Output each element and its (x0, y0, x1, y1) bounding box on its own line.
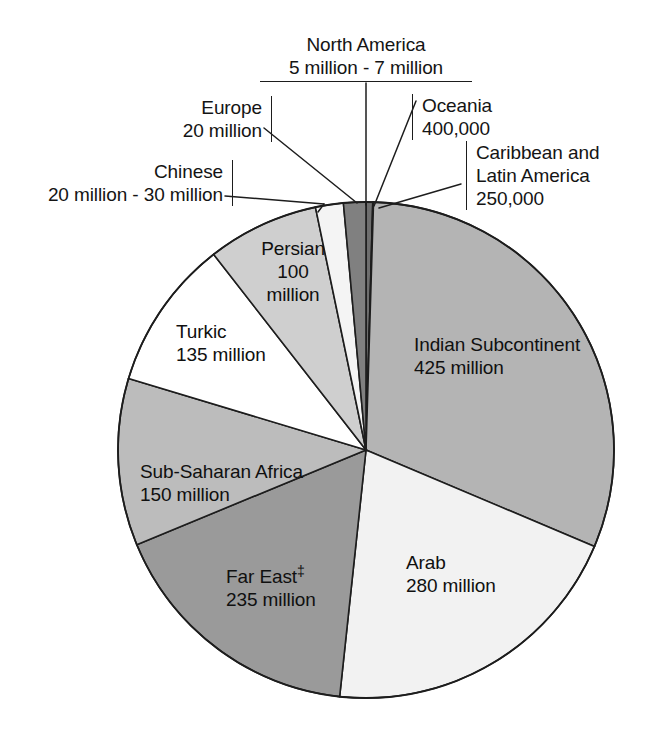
callout-oceania-line-1: Oceania (422, 94, 492, 117)
slice-label-turkic-line-2: 135 million (176, 343, 266, 366)
slice-label-persian-line-3: million (245, 283, 341, 306)
slice-label-sub-saharan-africa-line-2: 150 million (140, 483, 303, 506)
callout-north-america-line-2: 5 million - 7 million (260, 56, 472, 79)
slice-label-far-east-line-1-wrap: Far East‡ (226, 560, 316, 588)
pie-chart-figure: North America 5 million - 7 million Ocea… (0, 0, 648, 736)
callout-caribbean-latin-america-line-1: Caribbean and (476, 141, 599, 164)
callout-chinese-line-2: 20 million - 30 million (8, 183, 223, 206)
leader-line-oceania (374, 101, 416, 206)
callout-europe-line-2: 20 million (80, 119, 262, 142)
callout-chinese-line-1: Chinese (8, 160, 223, 183)
far-east-dagger-marker: ‡ (297, 563, 305, 579)
leader-line-chinese (225, 196, 324, 204)
slice-label-indian-subcontinent-line-1: Indian Subcontinent (414, 333, 580, 356)
slice-label-indian-subcontinent-line-2: 425 million (414, 356, 580, 379)
callout-caribbean-latin-america-line-3: 250,000 (476, 187, 599, 210)
callout-caribbean-latin-america: Caribbean and Latin America 250,000 (466, 141, 599, 210)
callout-caribbean-latin-america-line-2: Latin America (476, 164, 599, 187)
slice-label-turkic-line-1: Turkic (176, 320, 266, 343)
slice-label-persian-line-2: 100 (245, 260, 341, 283)
slice-label-arab-line-1: Arab (406, 551, 496, 574)
slice-label-arab: Arab 280 million (406, 551, 496, 597)
slice-label-far-east: Far East‡ 235 million (226, 560, 316, 611)
pie-slices (118, 202, 614, 698)
slice-label-turkic: Turkic 135 million (176, 320, 266, 366)
slice-label-sub-saharan-africa: Sub-Saharan Africa 150 million (140, 460, 303, 506)
callout-oceania: Oceania 400,000 (412, 94, 492, 140)
slice-label-indian-subcontinent: Indian Subcontinent 425 million (414, 333, 580, 379)
callout-north-america: North America 5 million - 7 million (260, 33, 472, 82)
slice-label-persian-line-1: Persian (245, 237, 341, 260)
leader-line-caribbean-latin-america (379, 184, 461, 208)
callout-europe: Europe 20 million (80, 96, 272, 142)
slice-label-far-east-line-1: Far East (226, 566, 297, 587)
callout-chinese: Chinese 20 million - 30 million (8, 160, 233, 206)
slice-label-far-east-line-2: 235 million (226, 588, 316, 611)
slice-label-sub-saharan-africa-line-1: Sub-Saharan Africa (140, 460, 303, 483)
callout-north-america-line-1: North America (260, 33, 472, 56)
slice-label-arab-line-2: 280 million (406, 574, 496, 597)
callout-oceania-line-2: 400,000 (422, 117, 492, 140)
leader-line-europe (264, 128, 357, 203)
slice-label-persian: Persian 100 million (245, 237, 341, 306)
callout-europe-line-1: Europe (80, 96, 262, 119)
